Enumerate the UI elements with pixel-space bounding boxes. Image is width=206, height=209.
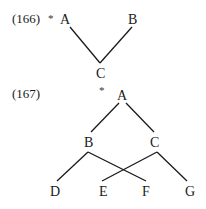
edge-a-c <box>126 103 154 132</box>
edge-b-d <box>57 152 88 181</box>
edge-a-b <box>91 103 119 132</box>
node-b: B <box>84 135 93 150</box>
example-166: (166) * A B C <box>12 11 137 81</box>
node-f: F <box>142 184 150 199</box>
edge-b-c <box>100 27 132 63</box>
ungrammatical-marker: * <box>99 84 105 96</box>
edge-b-f <box>88 152 146 181</box>
example-number: (166) <box>12 11 40 26</box>
edge-c-e <box>102 152 157 181</box>
node-e: E <box>99 184 108 199</box>
node-a: A <box>60 12 71 27</box>
node-d: D <box>50 184 60 199</box>
ungrammatical-marker: * <box>48 12 54 24</box>
example-number: (167) <box>12 86 40 101</box>
example-167: (167) * A B C D E F G <box>12 84 195 199</box>
node-b: B <box>128 12 137 27</box>
edge-a-c <box>70 27 100 63</box>
edge-c-g <box>157 152 187 181</box>
tree-diagrams: (166) * A B C (167) * A B C D E F G <box>0 0 206 209</box>
node-a: A <box>117 88 128 103</box>
node-c: C <box>96 66 105 81</box>
node-g: G <box>185 184 195 199</box>
node-c: C <box>150 135 159 150</box>
